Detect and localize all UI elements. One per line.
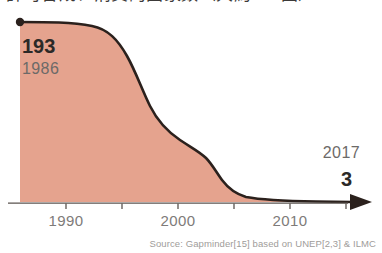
x-axis-ticks — [66, 204, 346, 210]
chart-container: 許可合成、消費的国家数（大約100国） 1990 2000 2010 193 1… — [0, 0, 382, 253]
start-year-label: 1986 — [22, 60, 59, 77]
x-tick-label-1990: 1990 — [49, 212, 84, 229]
area-chart-plot: 1990 2000 2010 193 1986 2017 3 — [0, 0, 382, 253]
x-tick-label-2000: 2000 — [161, 212, 196, 229]
source-attribution: Source: Gapminder[15] based on UNEP[2,3]… — [150, 238, 376, 249]
arrow-right-icon — [350, 194, 372, 210]
series-start-dot-icon — [16, 18, 24, 26]
end-year-label: 2017 — [323, 144, 360, 161]
end-value-label: 3 — [341, 168, 352, 190]
start-value-label: 193 — [22, 35, 55, 57]
area-series-fill — [20, 22, 352, 202]
x-tick-label-2010: 2010 — [273, 212, 308, 229]
